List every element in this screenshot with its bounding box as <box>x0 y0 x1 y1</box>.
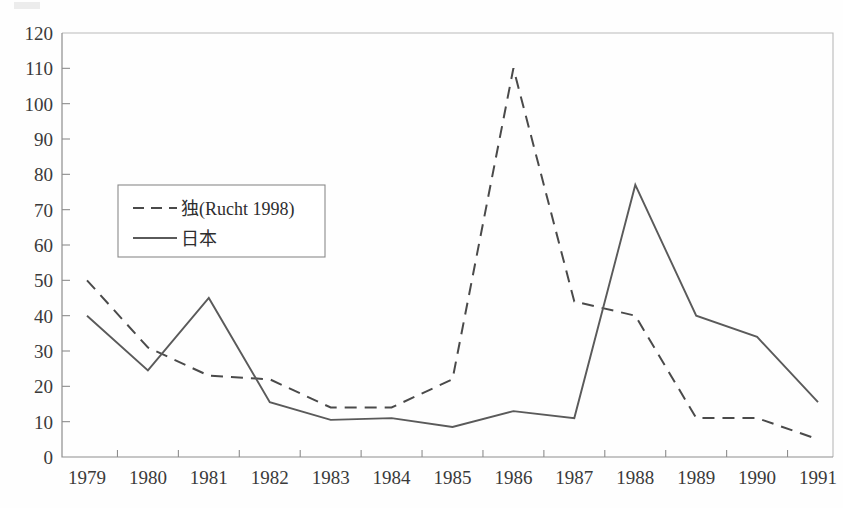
y-tick-label: 80 <box>34 164 53 185</box>
legend: 独(Rucht 1998) 日本 <box>118 185 325 257</box>
x-tick-label: 1986 <box>494 467 532 488</box>
legend-label-japan: 日本 <box>181 229 217 249</box>
x-tick-label: 1983 <box>312 467 350 488</box>
legend-box <box>118 185 325 257</box>
y-tick-label: 60 <box>34 235 53 256</box>
x-tick-label: 1987 <box>555 467 593 488</box>
y-tick-label: 20 <box>34 376 53 397</box>
x-axis-ticks <box>117 450 787 457</box>
x-axis-tick-labels: 1979198019811982198319841985198619871988… <box>68 467 837 488</box>
y-axis-tick-labels: 0102030405060708090100110120 <box>25 23 54 468</box>
y-tick-label: 0 <box>44 447 54 468</box>
y-tick-label: 120 <box>25 23 54 44</box>
line-chart: 0102030405060708090100110120 19791980198… <box>0 0 843 508</box>
y-tick-label: 100 <box>25 94 54 115</box>
x-tick-label: 1982 <box>251 467 289 488</box>
y-axis-ticks <box>62 68 70 421</box>
x-tick-label: 1988 <box>616 467 654 488</box>
x-tick-label: 1990 <box>738 467 776 488</box>
y-tick-label: 30 <box>34 341 53 362</box>
x-tick-label: 1980 <box>129 467 167 488</box>
y-tick-label: 40 <box>34 306 53 327</box>
y-tick-label: 10 <box>34 412 53 433</box>
x-tick-label: 1981 <box>190 467 228 488</box>
x-tick-label: 1985 <box>434 467 472 488</box>
chart-svg: 0102030405060708090100110120 19791980198… <box>0 0 843 508</box>
x-tick-label: 1984 <box>373 467 412 488</box>
x-tick-label: 1991 <box>799 467 837 488</box>
legend-label-germany: 独(Rucht 1998) <box>181 199 294 220</box>
x-tick-label: 1979 <box>68 467 106 488</box>
x-tick-label: 1989 <box>677 467 715 488</box>
y-tick-label: 70 <box>34 200 53 221</box>
y-tick-label: 50 <box>34 270 53 291</box>
chart-page: 0102030405060708090100110120 19791980198… <box>0 0 843 508</box>
y-tick-label: 90 <box>34 129 53 150</box>
y-tick-label: 110 <box>25 58 53 79</box>
